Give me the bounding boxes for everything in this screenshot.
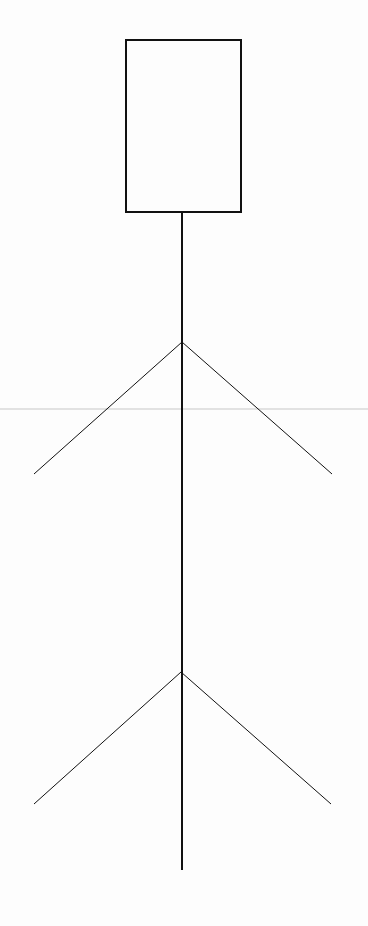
lower-left-branch bbox=[34, 672, 181, 804]
stick-figure-diagram bbox=[0, 0, 368, 926]
head-box bbox=[126, 40, 241, 212]
drawing-canvas bbox=[0, 0, 368, 926]
lower-right-branch bbox=[181, 672, 331, 804]
